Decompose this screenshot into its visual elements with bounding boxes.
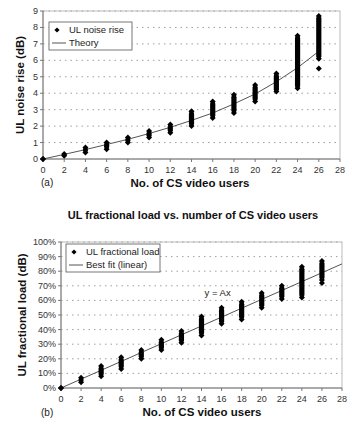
legend-item-line: Theory (69, 37, 99, 48)
chart-title: UL fractional load vs. number of CS vide… (68, 209, 318, 221)
y-tick-label: 100% (33, 237, 56, 247)
y-tick-label: 4 (33, 88, 38, 98)
y-tick-label: 20% (38, 354, 56, 364)
chart-canvas: 01234567890246810121416182022242628No. o… (0, 0, 362, 433)
y-tick-label: 9 (33, 6, 38, 16)
y-tick-label: 2 (33, 121, 38, 131)
x-tick-label: 14 (186, 165, 196, 175)
x-tick-label: 20 (257, 394, 267, 404)
legend-item-markers: UL noise rise (69, 24, 124, 35)
x-tick-label: 4 (99, 394, 104, 404)
legend-item-line: Best fit (linear) (86, 259, 147, 270)
x-tick-label: 6 (119, 394, 124, 404)
legend: UL noise riseTheory (49, 22, 132, 50)
fit-equation: y = Ax (205, 287, 231, 298)
figure: 01234567890246810121416182022242628No. o… (0, 0, 362, 433)
panel-label: (b) (41, 407, 53, 418)
x-tick-label: 24 (297, 394, 307, 404)
y-tick-label: 80% (38, 266, 56, 276)
x-axis-title: No. of CS video users (143, 406, 262, 418)
marker-series (58, 258, 325, 391)
y-tick-label: 0 (33, 154, 38, 164)
y-tick-label: 7 (33, 39, 38, 49)
y-tick-label: 8 (33, 22, 38, 32)
y-axis-title: UL noise rise (dB) (14, 36, 26, 134)
x-tick-label: 18 (229, 165, 239, 175)
x-tick-label: 20 (250, 165, 260, 175)
x-tick-label: 12 (176, 394, 186, 404)
x-tick-label: 6 (104, 165, 109, 175)
x-tick-label: 8 (125, 165, 130, 175)
x-tick-label: 28 (337, 394, 347, 404)
x-tick-label: 16 (217, 394, 227, 404)
y-axis-title: UL fractional load (dB) (16, 253, 28, 376)
y-tick-label: 3 (33, 105, 38, 115)
x-tick-label: 4 (83, 165, 88, 175)
panel-label: (a) (41, 177, 53, 188)
x-axis-title: No. of CS video users (131, 177, 250, 189)
y-tick-label: 1 (33, 138, 38, 148)
x-tick-label: 2 (79, 394, 84, 404)
x-tick-label: 24 (293, 165, 303, 175)
legend-item-markers: UL fractional load (86, 246, 160, 257)
x-tick-label: 28 (335, 165, 345, 175)
y-tick-label: 90% (38, 252, 56, 262)
x-tick-label: 10 (156, 394, 166, 404)
y-tick-label: 70% (38, 281, 56, 291)
x-tick-label: 16 (208, 165, 218, 175)
x-tick-label: 12 (165, 165, 175, 175)
y-tick-label: 30% (38, 339, 56, 349)
x-tick-label: 2 (62, 165, 67, 175)
y-tick-label: 40% (38, 325, 56, 335)
x-tick-label: 18 (237, 394, 247, 404)
x-tick-label: 0 (40, 165, 45, 175)
x-tick-label: 10 (144, 165, 154, 175)
chart-panel-b: UL fractional load vs. number of CS vide… (16, 209, 347, 418)
x-tick-label: 22 (271, 165, 281, 175)
x-tick-label: 26 (314, 165, 324, 175)
x-tick-label: 26 (317, 394, 327, 404)
x-tick-label: 14 (196, 394, 206, 404)
chart-panel-a: 01234567890246810121416182022242628No. o… (14, 6, 345, 189)
y-tick-label: 0% (43, 383, 56, 393)
legend: UL fractional loadBest fit (linear) (66, 244, 160, 272)
y-tick-label: 5 (33, 72, 38, 82)
x-tick-label: 0 (58, 394, 63, 404)
y-tick-label: 60% (38, 295, 56, 305)
y-tick-label: 6 (33, 55, 38, 65)
y-tick-label: 10% (38, 368, 56, 378)
x-tick-label: 8 (139, 394, 144, 404)
x-tick-label: 22 (277, 394, 287, 404)
y-tick-label: 50% (38, 310, 56, 320)
